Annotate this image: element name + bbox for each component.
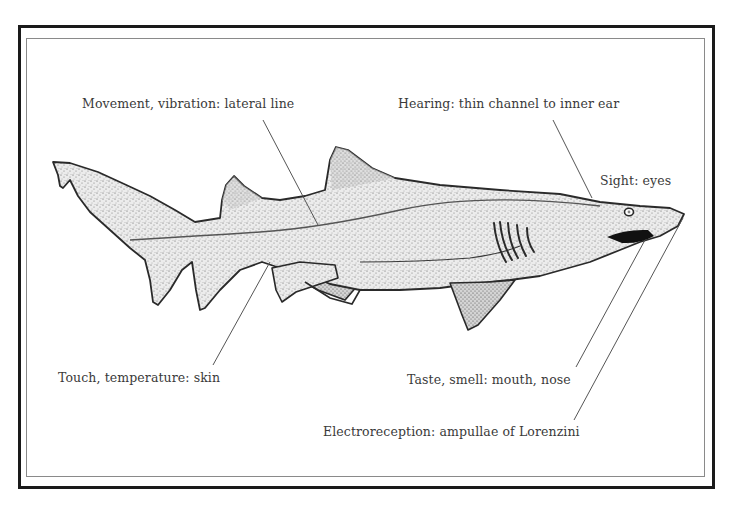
label-hearing: Hearing: thin channel to inner ear <box>398 96 619 111</box>
label-sight: Sight: eyes <box>600 173 671 188</box>
label-lateral-line: Movement, vibration: lateral line <box>82 96 294 111</box>
eye <box>625 208 634 216</box>
leader-hearing <box>553 120 592 198</box>
pectoral-fin <box>450 280 515 330</box>
label-taste-smell: Taste, smell: mouth, nose <box>407 372 571 387</box>
label-electroreception: Electroreception: ampullae of Lorenzini <box>323 424 580 439</box>
label-touch: Touch, temperature: skin <box>58 370 220 385</box>
